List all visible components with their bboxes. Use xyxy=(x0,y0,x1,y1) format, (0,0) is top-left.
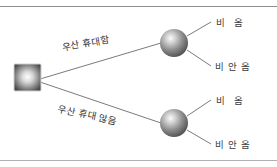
outcome-lines xyxy=(187,22,211,144)
outcome-line-rain-1 xyxy=(187,22,211,36)
decision-node-square[interactable] xyxy=(14,64,41,91)
outcome-label-rain-1: 비옴 xyxy=(216,18,243,28)
branch-line-carry xyxy=(40,43,161,79)
bottom-divider xyxy=(0,160,277,161)
outcome-line-no-rain-1 xyxy=(187,50,211,66)
outcome-label-no-rain-1: 비안옴 xyxy=(215,62,250,72)
outcome-label-rain-2: 비옴 xyxy=(216,96,243,106)
chance-node-upper[interactable] xyxy=(160,29,188,57)
outcome-label-no-rain-2: 비안옴 xyxy=(215,140,250,150)
outcome-line-rain-2 xyxy=(187,100,211,116)
decision-tree-figure: 우산 휴대함 우산 휴대 않음 비옴 비안옴 비옴 비안옴 xyxy=(0,0,277,167)
outcome-line-no-rain-2 xyxy=(187,130,211,144)
chance-node-lower[interactable] xyxy=(160,109,188,137)
